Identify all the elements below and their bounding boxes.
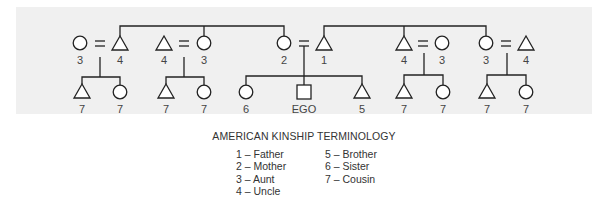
children-line (487, 75, 526, 86)
legend-item: 2 – Mother (236, 160, 286, 172)
kin-label: 7 (79, 103, 85, 115)
legend-item: 6 – Sister (325, 160, 377, 172)
female-symbol (519, 85, 533, 99)
legend-item: 4 – Uncle (236, 185, 286, 197)
male-symbol (156, 36, 172, 50)
legend-item: 3 – Aunt (236, 173, 286, 185)
kin-label: 3 (77, 54, 83, 66)
kin-label: 6 (243, 103, 249, 115)
male-symbol (74, 84, 90, 98)
connector-lines (82, 26, 526, 86)
kin-label: 3 (201, 54, 207, 66)
female-symbol (239, 85, 253, 99)
kin-label: 7 (484, 103, 490, 115)
female-symbol (435, 36, 449, 50)
male-symbol (354, 84, 370, 98)
legend-item: 5 – Brother (325, 148, 377, 160)
kin-label: 3 (483, 54, 489, 66)
kin-label: 5 (359, 103, 365, 115)
kin-label: 7 (201, 103, 207, 115)
female-symbol (197, 85, 211, 99)
female-symbol (197, 36, 211, 50)
female-symbol (479, 36, 493, 50)
kin-label: 7 (523, 103, 529, 115)
children-line (166, 77, 204, 86)
male-symbol (396, 36, 412, 50)
children-line (404, 75, 443, 86)
kinship-diagram: 3 4 4 3 2 1 4 3 3 4 7 7 7 7 6 EGO 5 7 7 … (0, 0, 608, 124)
kin-label: 4 (161, 54, 167, 66)
female-symbol (277, 36, 291, 50)
kin-label: 3 (439, 54, 445, 66)
legend-column-left: 1 – Father 2 – Mother 3 – Aunt 4 – Uncle (236, 148, 286, 197)
kin-label: 7 (401, 103, 407, 115)
male-symbol (112, 36, 128, 50)
sibling-line-maternal (120, 26, 284, 37)
male-symbol (479, 84, 495, 98)
children-line (82, 77, 120, 86)
legend-item: 1 – Father (236, 148, 286, 160)
kin-label: 4 (401, 54, 407, 66)
female-symbol (436, 85, 450, 99)
sibling-line-paternal (324, 26, 486, 37)
male-symbol (396, 84, 412, 98)
female-symbol (73, 36, 87, 50)
female-symbol (113, 85, 127, 99)
ego-square-symbol (297, 85, 311, 99)
kin-label: 2 (281, 54, 287, 66)
kin-label: 1 (321, 54, 327, 66)
male-symbol (518, 36, 534, 50)
male-symbol (316, 36, 332, 50)
male-symbol (158, 84, 174, 98)
kin-label: 7 (440, 103, 446, 115)
diagram-title: AMERICAN KINSHIP TERMINOLOGY (0, 130, 608, 142)
ego-label: EGO (292, 103, 317, 115)
legend-item: 7 – Cousin (325, 173, 377, 185)
kin-label: 7 (117, 103, 123, 115)
kin-label: 4 (523, 54, 529, 66)
legend-column-right: 5 – Brother 6 – Sister 7 – Cousin (325, 148, 377, 185)
kin-label: 7 (163, 103, 169, 115)
kin-label: 4 (117, 54, 123, 66)
